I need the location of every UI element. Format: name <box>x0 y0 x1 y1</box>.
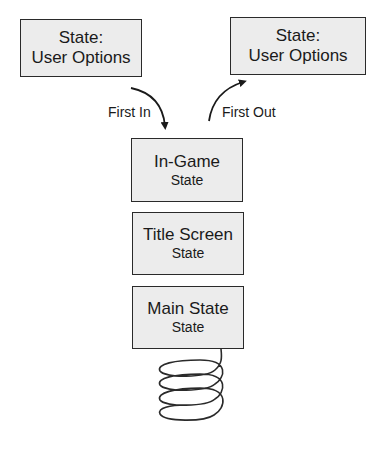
stack-item-title: In-Game <box>154 152 220 172</box>
stack-item-subtitle: State <box>172 319 205 336</box>
first-in-arrow <box>131 88 165 126</box>
stack-item-subtitle: State <box>172 245 205 262</box>
stack-item-title-screen: Title Screen State <box>132 212 244 275</box>
spring-icon <box>159 349 223 420</box>
stack-item-subtitle: State <box>171 172 204 189</box>
stack-item-title: Main State <box>147 299 228 319</box>
first-out-arrow <box>209 82 243 121</box>
stack-item-main-state: Main State State <box>132 286 244 349</box>
stack-item-title: Title Screen <box>143 225 233 245</box>
stack-item-in-game: In-Game State <box>131 138 243 202</box>
